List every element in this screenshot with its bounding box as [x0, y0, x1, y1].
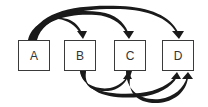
- edge-b-to-c: [80, 71, 128, 91]
- node-c-label: C: [126, 49, 135, 63]
- arrowhead-d-bottom-1: [171, 72, 181, 79]
- node-a: A: [18, 40, 50, 71]
- node-b: B: [64, 40, 96, 71]
- edge-a-to-d: [31, 6, 178, 40]
- diagram-canvas: A B C D: [0, 0, 208, 107]
- node-c: C: [114, 40, 146, 71]
- node-d: D: [162, 40, 194, 71]
- arrowhead-b-top: [77, 31, 87, 39]
- arrowhead-c-top: [123, 31, 134, 39]
- node-a-label: A: [30, 49, 38, 63]
- node-d-label: D: [174, 49, 183, 63]
- arrowhead-d-bottom-2: [182, 72, 193, 79]
- node-b-label: B: [76, 49, 84, 63]
- arrowhead-d-top: [172, 31, 184, 39]
